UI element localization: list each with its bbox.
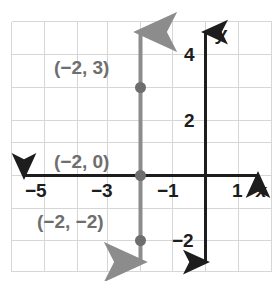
point-label-neg2-neg2: (−2, −2) — [37, 212, 104, 231]
point-marker-neg2-3 — [135, 82, 146, 93]
point-label-neg2-0: (−2, 0) — [54, 152, 109, 171]
y-tick-label-neg2: −2 — [172, 231, 194, 250]
point-label-neg2-3: (−2, 3) — [54, 58, 109, 77]
x-tick-label-neg1: −1 — [157, 181, 179, 200]
y-axis-label: y — [216, 24, 227, 43]
graph-canvas — [0, 0, 280, 281]
point-marker-neg2-neg2 — [135, 235, 146, 246]
x-axis-label: x — [256, 181, 267, 200]
x-tick-label-neg3: −3 — [91, 181, 113, 200]
coordinate-plane-figure: (−2, 3) (−2, 0) (−2, −2) −5 −3 −1 1 x 4 … — [0, 0, 280, 281]
y-tick-label-2: 2 — [184, 111, 195, 130]
x-tick-label-1: 1 — [232, 181, 243, 200]
point-marker-neg2-0 — [135, 170, 146, 181]
y-tick-label-4: 4 — [184, 45, 195, 64]
x-tick-label-neg5: −5 — [25, 181, 47, 200]
